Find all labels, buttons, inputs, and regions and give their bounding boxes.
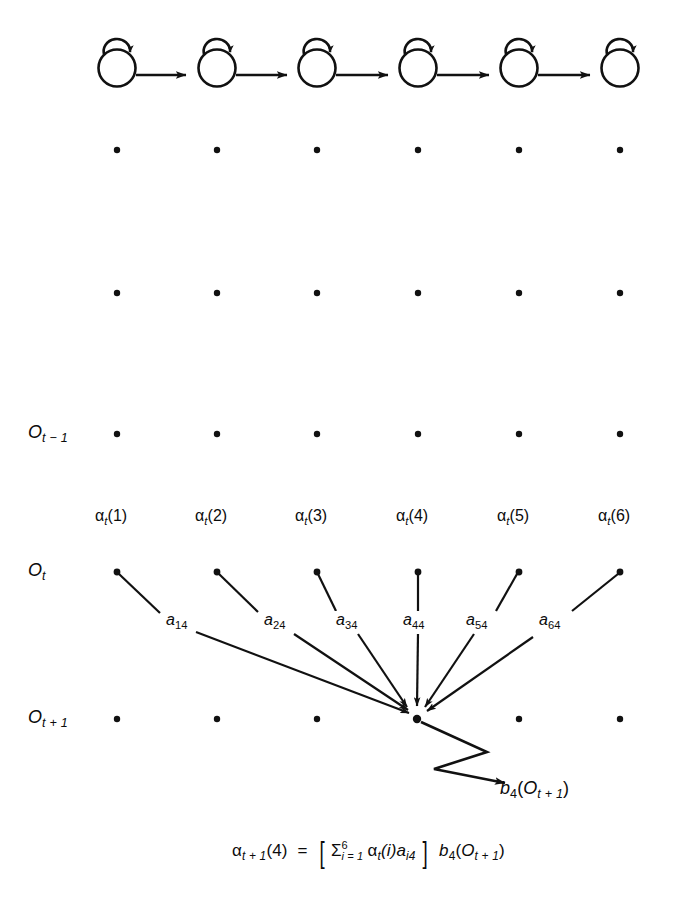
- alpha-argument: (1): [108, 507, 128, 524]
- eq-emission-observation-subscript: t + 1: [475, 849, 499, 863]
- lattice-dot: [214, 147, 220, 153]
- lattice-dot: [516, 147, 522, 153]
- lattice-dot: [114, 290, 120, 296]
- lattice-dot-layer: [114, 147, 624, 723]
- row-label-o-base: O: [28, 560, 42, 580]
- row-label-o-sub: t: [42, 569, 46, 583]
- state-node-2: [199, 39, 288, 87]
- lattice-dot: [516, 431, 522, 437]
- emission-label-b4: b4(Ot + 1): [500, 779, 569, 801]
- observation-subscript: t + 1: [537, 787, 563, 801]
- eq-summation: Σ6i = 1: [331, 842, 342, 859]
- eq-lhs-subscript: t + 1: [242, 849, 266, 863]
- lattice-dot: [314, 431, 320, 437]
- row-label-o-sub: t + 1: [42, 716, 68, 730]
- eq-term-a: a: [396, 841, 406, 860]
- lattice-dot: [415, 431, 421, 437]
- a-base: a: [539, 611, 548, 628]
- alpha-label-6: αt(6): [598, 508, 630, 527]
- transition-arrow-a44: [417, 574, 418, 706]
- a-base: a: [466, 611, 475, 628]
- eq-emission-observation: O: [461, 841, 474, 860]
- eq-bracket-open: [: [319, 838, 324, 868]
- lattice-dot: [617, 431, 623, 437]
- alpha-label-3: αt(3): [295, 508, 327, 527]
- lattice-dot: [516, 716, 522, 722]
- transition-label-a14: a14: [163, 611, 191, 632]
- transition-label-a64: a64: [536, 611, 564, 632]
- eq-lhs-argument: (4): [266, 841, 287, 860]
- lattice-dot: [314, 290, 320, 296]
- row-label-o-t-minus-1: Ot − 1: [28, 423, 68, 445]
- observation-symbol: O: [523, 778, 537, 798]
- zigzag-arrow-icon: [421, 722, 505, 783]
- eq-bracket-close: ]: [422, 838, 427, 868]
- alpha-argument: (2): [208, 507, 228, 524]
- transition-label-a54: a54: [463, 611, 491, 632]
- alpha-symbol: α: [95, 507, 104, 524]
- lattice-dot: [516, 290, 522, 296]
- forward-recursion-equation: αt + 1(4)=[Σ6i = 1αt(i)ai4]b4(Ot + 1): [232, 838, 505, 868]
- lattice-dot: [214, 290, 220, 296]
- a-base: a: [403, 611, 412, 628]
- eq-lhs-alpha: α: [232, 841, 242, 860]
- state-node-4: [400, 39, 490, 87]
- state-node-6: [602, 39, 639, 87]
- lattice-dot: [415, 147, 421, 153]
- lattice-dot: [114, 431, 120, 437]
- alpha-argument: (5): [510, 507, 530, 524]
- row-label-o-base: O: [28, 422, 42, 442]
- alpha-argument: (3): [308, 507, 328, 524]
- row-label-o-t-plus-1: Ot + 1: [28, 708, 68, 730]
- state-node-5: [501, 39, 591, 87]
- lattice-dot: [114, 716, 120, 722]
- eq-term-argument: (i): [381, 841, 396, 860]
- transition-label-a44: a44: [400, 611, 428, 632]
- lattice-dot: [617, 290, 623, 296]
- a-base: a: [166, 611, 175, 628]
- alpha-argument: (4): [409, 507, 429, 524]
- transition-label-a24: a24: [261, 611, 289, 632]
- transition-label-a34: a34: [333, 611, 361, 632]
- transition-arrow-layer: [119, 574, 618, 713]
- lattice-dot: [617, 716, 623, 722]
- lattice-dot: [114, 147, 120, 153]
- alpha-label-5: αt(5): [497, 508, 529, 527]
- alpha-label-2: αt(2): [195, 508, 227, 527]
- transition-arrow-a64: [427, 574, 618, 711]
- lattice-dot: [314, 147, 320, 153]
- alpha-symbol: α: [497, 507, 506, 524]
- state-node-3: [299, 39, 389, 87]
- a-base: a: [336, 611, 345, 628]
- eq-equals-sign: =: [297, 841, 307, 860]
- lattice-dot: [617, 147, 623, 153]
- alpha-argument: (6): [611, 507, 631, 524]
- alpha-symbol: α: [598, 507, 607, 524]
- figure-root: Ot − 1 Ot Ot + 1 αt(1) αt(2) αt(3) αt(4)…: [0, 0, 675, 904]
- lattice-dot: [415, 290, 421, 296]
- a-subscript: 44: [412, 619, 425, 631]
- transition-arrow-a54: [425, 574, 517, 707]
- alpha-label-1: αt(1): [95, 508, 127, 527]
- a-base: a: [264, 611, 273, 628]
- a-subscript: 24: [273, 619, 286, 631]
- lattice-dot: [214, 716, 220, 722]
- lattice-dot: [214, 431, 220, 437]
- alpha-symbol: α: [396, 507, 405, 524]
- alpha-label-4: αt(4): [396, 508, 428, 527]
- row-label-o-base: O: [28, 707, 42, 727]
- eq-emission-b: b: [439, 841, 449, 860]
- a-subscript: 54: [475, 619, 488, 631]
- markov-chain-layer: [99, 39, 639, 87]
- eq-sigma-symbol: Σ: [331, 841, 342, 860]
- alpha-symbol: α: [195, 507, 204, 524]
- a-subscript: 14: [175, 619, 188, 631]
- eq-sum-lower-limit: i = 1: [342, 851, 364, 862]
- eq-term-a-subscript: i4: [406, 849, 416, 863]
- b-base: b: [500, 778, 510, 798]
- a-subscript: 64: [548, 619, 561, 631]
- alpha-symbol: α: [295, 507, 304, 524]
- transition-arrow-a24: [219, 574, 408, 710]
- trellis-diagram-canvas: [0, 0, 675, 904]
- emission-layer: [421, 722, 505, 783]
